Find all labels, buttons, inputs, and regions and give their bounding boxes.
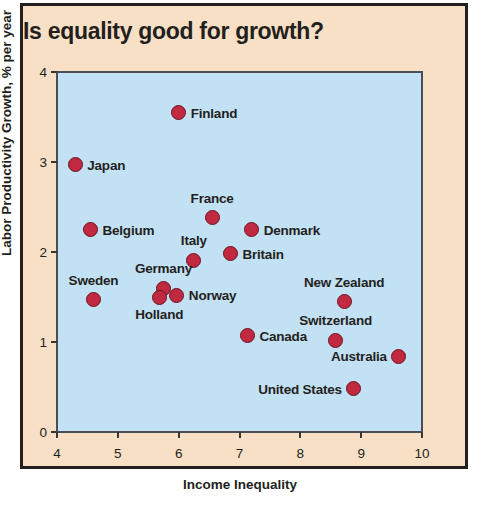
x-axis-label: Income Inequality (183, 477, 297, 492)
x-tick-mark (239, 432, 241, 438)
y-tick-label: 0 (39, 425, 47, 440)
data-point-label: United States (258, 381, 342, 396)
x-tick-label: 6 (175, 446, 183, 461)
data-point[interactable] (205, 210, 220, 225)
data-point-label: Finland (191, 105, 238, 120)
x-tick-mark (117, 432, 119, 438)
y-tick-mark (51, 251, 57, 253)
x-tick-mark (56, 432, 58, 438)
data-point-label: Canada (259, 328, 307, 343)
data-point-label: New Zealand (304, 275, 384, 290)
y-tick-label: 3 (39, 155, 47, 170)
x-tick-mark (360, 432, 362, 438)
data-point[interactable] (83, 222, 98, 237)
data-point-label: Belgium (102, 222, 154, 237)
data-point-label: Norway (189, 288, 237, 303)
data-point[interactable] (68, 157, 83, 172)
data-point-label: Switzerland (299, 313, 372, 328)
x-tick-mark (421, 432, 423, 438)
data-point[interactable] (152, 290, 167, 305)
data-point[interactable] (337, 294, 352, 309)
data-point[interactable] (240, 328, 255, 343)
x-tick-label: 5 (114, 446, 122, 461)
x-tick-mark (299, 432, 301, 438)
data-point-label: Germany (135, 261, 192, 276)
y-tick-mark (51, 341, 57, 343)
x-tick-label: 7 (236, 446, 244, 461)
y-tick-label: 2 (39, 245, 47, 260)
x-tick-label: 10 (414, 446, 429, 461)
x-tick-label: 9 (357, 446, 365, 461)
y-axis-label: Labor Productivity Growth, % per year (0, 10, 14, 256)
data-point-label: Australia (331, 349, 387, 364)
y-tick-mark (51, 161, 57, 163)
data-point-label: Sweden (69, 273, 119, 288)
data-point[interactable] (169, 288, 184, 303)
data-point-label: Italy (181, 233, 207, 248)
y-tick-label: 1 (39, 335, 47, 350)
data-point-label: Britain (242, 246, 283, 261)
data-point-label: Holland (135, 307, 183, 322)
y-tick-label: 4 (39, 65, 47, 80)
data-point-label: Japan (87, 157, 125, 172)
plot-area (56, 71, 423, 433)
chart-figure: Is equality good for growth? 01234456789… (0, 0, 489, 518)
x-tick-mark (178, 432, 180, 438)
page-title: Is equality good for growth? (23, 18, 324, 45)
x-tick-label: 4 (53, 446, 61, 461)
data-point-label: France (191, 191, 234, 206)
data-point-label: Denmark (264, 222, 320, 237)
y-tick-mark (51, 71, 57, 73)
data-point[interactable] (328, 333, 343, 348)
x-tick-label: 8 (297, 446, 305, 461)
